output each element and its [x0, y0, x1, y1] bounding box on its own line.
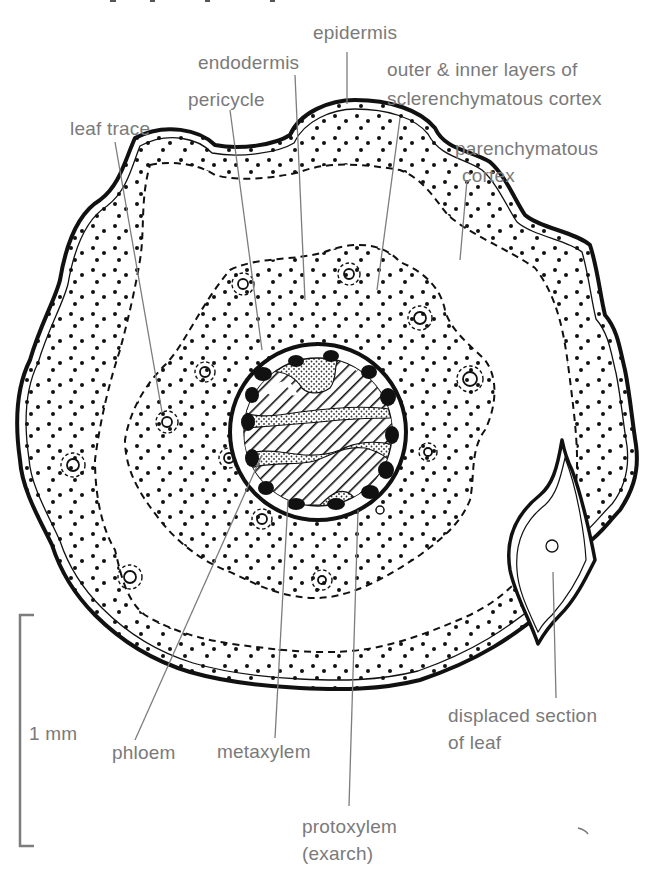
- scale-bar: 1 mm: [20, 615, 77, 846]
- stem-cross-section-diagram: 1 mm epidermis endodermis outer & inner …: [0, 0, 671, 877]
- label-displaced-line1: displaced section: [448, 705, 597, 726]
- label-parenchymatous-line1: parenchymatous: [455, 138, 598, 159]
- scale-bar-label: 1 mm: [29, 723, 77, 744]
- cropped-header-text: [110, 0, 275, 2]
- label-sclerenchyma-line1: outer & inner layers of: [387, 59, 578, 80]
- label-metaxylem: metaxylem: [217, 741, 311, 762]
- label-pericycle: pericycle: [188, 89, 265, 110]
- label-phloem: phloem: [112, 742, 176, 763]
- leaf-vascular-bundle: [546, 540, 558, 552]
- label-leaf-trace: leaf trace: [70, 118, 150, 139]
- label-sclerenchyma-line2: sclerenchymatous cortex: [387, 88, 602, 109]
- label-epidermis: epidermis: [313, 22, 397, 43]
- label-endodermis: endodermis: [198, 52, 299, 73]
- label-parenchymatous-line2: cortex: [462, 165, 515, 186]
- stele: [230, 344, 406, 520]
- label-protoxylem-line2: (exarch): [302, 843, 373, 864]
- stray-mark: [578, 828, 588, 834]
- label-protoxylem-line1: protoxylem: [302, 816, 397, 837]
- label-displaced-line2: of leaf: [448, 732, 502, 753]
